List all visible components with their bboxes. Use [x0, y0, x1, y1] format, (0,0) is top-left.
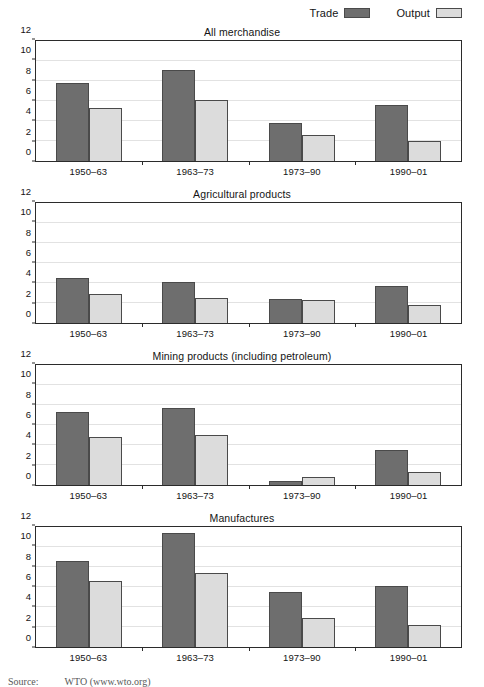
- y-axis-tick-label: 8: [26, 226, 31, 237]
- bar-output: [408, 305, 441, 324]
- x-axis-tick-label: 1963–73: [176, 166, 214, 177]
- bar-groups: [36, 527, 461, 647]
- x-axis-tick-label: 1963–73: [176, 328, 214, 339]
- bar-group: [36, 41, 142, 161]
- y-axis-tick-label: 8: [26, 64, 31, 75]
- x-axis-tick-label: 1963–73: [176, 490, 214, 501]
- bar-trade: [375, 586, 408, 647]
- x-axis-tick-mark: [355, 162, 356, 165]
- bar-group: [355, 365, 461, 485]
- y-axis-tick-label: 6: [26, 571, 31, 582]
- x-axis-tick-mark: [142, 162, 143, 165]
- source-note: Source:WTO (www.wto.org): [8, 676, 150, 687]
- y-axis-tick-label: 12: [20, 510, 31, 521]
- bar-group: [355, 41, 461, 161]
- chart-title: Manufactures: [0, 512, 484, 526]
- bar-output: [89, 581, 122, 648]
- bar-trade: [162, 533, 195, 647]
- bar-group: [36, 203, 142, 323]
- x-axis-tick-mark: [249, 324, 250, 327]
- y-axis-tick-label: 0: [26, 470, 31, 481]
- x-axis: 1950–631963–731973–901990–01: [35, 324, 462, 340]
- chart-panel: Manufactures0246810121950–631963–731973–…: [0, 512, 484, 674]
- bar-trade: [56, 83, 89, 161]
- chart-legend: TradeOutput: [0, 0, 484, 26]
- bar-output: [89, 437, 122, 486]
- y-axis-tick-label: 8: [26, 388, 31, 399]
- y-axis-tick-label: 2: [26, 611, 31, 622]
- plot-area: 024681012: [35, 40, 462, 162]
- bar-output: [195, 100, 228, 161]
- y-axis-tick-label: 12: [20, 24, 31, 35]
- bar-trade: [375, 450, 408, 485]
- bar-group: [142, 527, 248, 647]
- bar-trade: [56, 412, 89, 486]
- plot-area: 024681012: [35, 526, 462, 648]
- y-axis-tick-label: 0: [26, 146, 31, 157]
- bar-groups: [36, 41, 461, 161]
- bar-output: [408, 625, 441, 647]
- x-axis-tick-mark: [142, 648, 143, 651]
- x-axis-tick-mark: [249, 648, 250, 651]
- legend-label-trade: Trade: [310, 7, 339, 19]
- bar-trade: [375, 105, 408, 162]
- bar-group: [355, 203, 461, 323]
- chart-panel: Agricultural products0246810121950–63196…: [0, 188, 484, 350]
- bar-output: [195, 298, 228, 323]
- x-axis-tick-mark: [355, 324, 356, 327]
- chart-title: Agricultural products: [0, 188, 484, 202]
- bar-trade: [269, 592, 302, 647]
- bar-trade: [269, 123, 302, 161]
- x-axis-tick-label: 1973–90: [283, 166, 321, 177]
- x-axis-tick-label: 1990–01: [390, 490, 428, 501]
- y-axis-tick-label: 12: [20, 348, 31, 359]
- bar-trade: [56, 278, 89, 323]
- bar-group: [249, 203, 355, 323]
- x-axis-tick-mark: [249, 162, 250, 165]
- y-axis-tick-label: 4: [26, 429, 31, 440]
- x-axis: 1950–631963–731973–901990–01: [35, 648, 462, 664]
- legend-label-output: Output: [396, 7, 430, 19]
- bar-groups: [36, 203, 461, 323]
- chart-title: Mining products (including petroleum): [0, 350, 484, 364]
- x-axis-tick-mark: [355, 648, 356, 651]
- bar-trade: [269, 299, 302, 323]
- x-axis-tick-label: 1973–90: [283, 328, 321, 339]
- plot-frame: [35, 202, 462, 324]
- x-axis-tick-label: 1950–63: [70, 490, 108, 501]
- y-axis-tick-label: 8: [26, 550, 31, 561]
- bar-output: [89, 294, 122, 323]
- x-axis-tick-mark: [355, 486, 356, 489]
- bar-trade: [162, 70, 195, 161]
- plot-area: 024681012: [35, 202, 462, 324]
- chart-panel: All merchandise0246810121950–631963–7319…: [0, 26, 484, 188]
- x-axis-tick-label: 1950–63: [70, 166, 108, 177]
- y-axis-tick-label: 6: [26, 85, 31, 96]
- bar-group: [355, 527, 461, 647]
- legend-entry-trade: Trade: [310, 7, 371, 19]
- bar-output: [408, 141, 441, 162]
- bar-output: [195, 573, 228, 647]
- bar-output: [302, 477, 335, 485]
- bar-output: [302, 300, 335, 323]
- x-axis-tick-label: 1990–01: [390, 328, 428, 339]
- y-axis-tick-label: 6: [26, 247, 31, 258]
- y-axis-tick-label: 10: [20, 44, 31, 55]
- x-axis-tick-mark: [249, 486, 250, 489]
- x-axis-tick-label: 1973–90: [283, 490, 321, 501]
- bar-group: [36, 527, 142, 647]
- plot-frame: [35, 364, 462, 486]
- bar-group: [142, 41, 248, 161]
- y-axis-tick-label: 10: [20, 368, 31, 379]
- bar-groups: [36, 365, 461, 485]
- source-text: WTO (www.wto.org): [65, 676, 151, 687]
- bar-group: [249, 527, 355, 647]
- x-axis-tick-label: 1950–63: [70, 652, 108, 663]
- bar-group: [142, 203, 248, 323]
- y-axis-tick-label: 10: [20, 530, 31, 541]
- y-axis-tick-label: 2: [26, 287, 31, 298]
- plot-area: 024681012: [35, 364, 462, 486]
- x-axis-tick-mark: [142, 486, 143, 489]
- bar-group: [249, 41, 355, 161]
- legend-entry-output: Output: [396, 7, 462, 19]
